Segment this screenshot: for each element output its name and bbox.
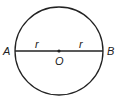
label-r-right: r [79, 38, 84, 50]
center-point [57, 49, 60, 52]
label-r-left: r [35, 38, 40, 50]
label-b: B [107, 45, 114, 57]
label-o: O [55, 55, 64, 67]
label-a: A [2, 45, 10, 57]
circle-diagram: A B O r r [0, 0, 118, 105]
